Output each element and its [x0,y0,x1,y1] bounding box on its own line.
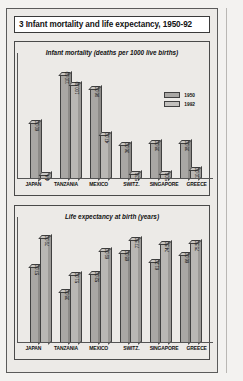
bar-group: 60.004.4 [30,123,49,180]
page-right-margin [226,8,240,373]
chart1-y-axis [17,53,18,179]
bar-value-label: 52.00 [95,272,100,283]
category-label: GREECE [180,345,213,351]
bar-group: 52.0069.00 [90,251,109,343]
bar-rect: 74.50 [160,244,169,343]
bar-group: 38.005.00 [150,143,169,179]
bar-value-label: 61.20 [155,259,160,270]
bar-rect: 79.00 [40,238,49,343]
bar-group: 38.0010.00 [180,143,199,179]
bar-1992: 100.00 [70,85,79,179]
bar-value-label: 100.00 [75,81,80,94]
bar-side-face [78,81,82,181]
bar-value-label: 38.00 [65,290,70,301]
bar-side-face [168,240,172,345]
bar-value-label: 66.00 [185,253,190,264]
bar-group: 68.0077.50 [120,240,139,343]
bar-1992: 51.00 [70,275,79,343]
bar-group: 38.0051.00 [60,275,79,343]
bar-group: 36.005.30 [120,145,139,179]
bar-1950: 57.00 [30,267,39,343]
bar-1950: 52.00 [90,274,99,343]
bar-rect: 66.00 [180,255,189,343]
bar-1950: 60.00 [30,123,39,180]
bar-value-label: 10.00 [195,167,200,178]
bar-value-label: 57.00 [35,265,40,276]
bar-side-face [138,236,142,345]
bar-rect: 57.00 [30,267,39,343]
bar-value-label: 5.30 [135,173,140,181]
bar-side-face [108,247,112,344]
bar-group: 61.2074.50 [150,244,169,343]
category-label: GREECE [180,181,213,187]
bar-value-label: 38.00 [185,141,190,152]
bar-side-face [198,239,202,345]
bar-1992: 77.50 [130,240,139,343]
figure-page: 3 Infant mortality and life expectancy, … [0,0,243,381]
bar-value-label: 68.00 [125,250,130,261]
bar-1992: 74.50 [160,244,169,343]
bar-1950: 61.20 [150,262,159,343]
bar-value-label: 5.00 [165,173,170,181]
category-label: SINGAPORE [148,181,181,187]
bar-rect: 69.00 [100,251,109,343]
bar-rect: 60.00 [30,123,39,180]
chart1-plot-area: 60.004.4110.00100.0096.0047.0036.005.303… [25,66,205,179]
bar-value-label: 77.50 [135,238,140,249]
bar-value-label: 60.00 [35,120,40,131]
bar-value-label: 47.00 [105,133,110,144]
bar-value-label: 110.00 [65,72,70,85]
category-label: TANZANIA [50,345,83,351]
bar-value-label: 38.00 [155,141,160,152]
bar-group: 96.0047.00 [90,89,109,179]
bar-value-label: 51.00 [75,273,80,284]
category-label: JAPAN [17,181,50,187]
bar-1950: 68.00 [120,253,129,343]
bar-rect: 38.00 [180,143,189,179]
bar-rect: 68.00 [120,253,129,343]
bar-rect: 51.00 [70,275,79,343]
bar-rect: 110.00 [60,75,69,179]
bar-value-label: 36.00 [125,143,130,154]
bar-1950: 96.00 [90,89,99,179]
category-label: SWITZ. [115,181,148,187]
chart2-category-labels: JAPANTANZANIAMEXICOSWITZ.SINGAPOREGREECE [17,345,213,351]
bar-rect: 77.50 [130,240,139,343]
bar-value-label: 74.50 [165,242,170,253]
bar-1992: 79.00 [40,238,49,343]
bar-1950: 38.00 [180,143,189,179]
bar-value-label: 96.00 [95,86,100,97]
bar-rect: 75.50 [190,243,199,343]
bar-group: 66.0075.50 [180,243,199,343]
bar-rect: 47.00 [100,135,109,179]
page-title: 3 Infant mortality and life expectancy, … [15,20,192,29]
bar-1992: 75.50 [190,243,199,343]
chart-life-expectancy: Life expectancy at birth (years) 57.0079… [14,205,210,360]
bar-group: 110.00100.00 [60,75,79,179]
chart1-category-labels: JAPANTANZANIAMEXICOSWITZ.SINGAPOREGREECE [17,181,213,187]
chart2-y-axis [17,217,18,343]
bar-value-label: 75.50 [195,240,200,251]
figure-sheet: 3 Infant mortality and life expectancy, … [6,8,218,373]
bar-rect: 61.20 [150,262,159,343]
chart2-x-axis [17,342,213,343]
bar-rect: 52.00 [90,274,99,343]
chart-infant-mortality: Infant mortality (deaths per 1000 live b… [14,41,210,196]
bar-rect: 96.00 [90,89,99,179]
category-label: TANZANIA [50,181,83,187]
bar-value-label: 4.4 [45,175,50,181]
bar-1992: 69.00 [100,251,109,343]
bar-side-face [48,234,52,345]
bar-group: 57.0079.00 [30,238,49,343]
figure-title-box: 3 Infant mortality and life expectancy, … [14,16,210,33]
chart1-title: Infant mortality (deaths per 1000 live b… [15,49,209,56]
category-label: MEXICO [82,181,115,187]
bar-1950: 38.00 [60,292,69,343]
bar-1950: 110.00 [60,75,69,179]
bar-value-label: 79.00 [45,236,50,247]
bar-1950: 66.00 [180,255,189,343]
category-label: SWITZ. [115,345,148,351]
bar-1992: 47.00 [100,135,109,179]
bar-rect: 38.00 [60,292,69,343]
bar-rect: 100.00 [70,85,79,179]
